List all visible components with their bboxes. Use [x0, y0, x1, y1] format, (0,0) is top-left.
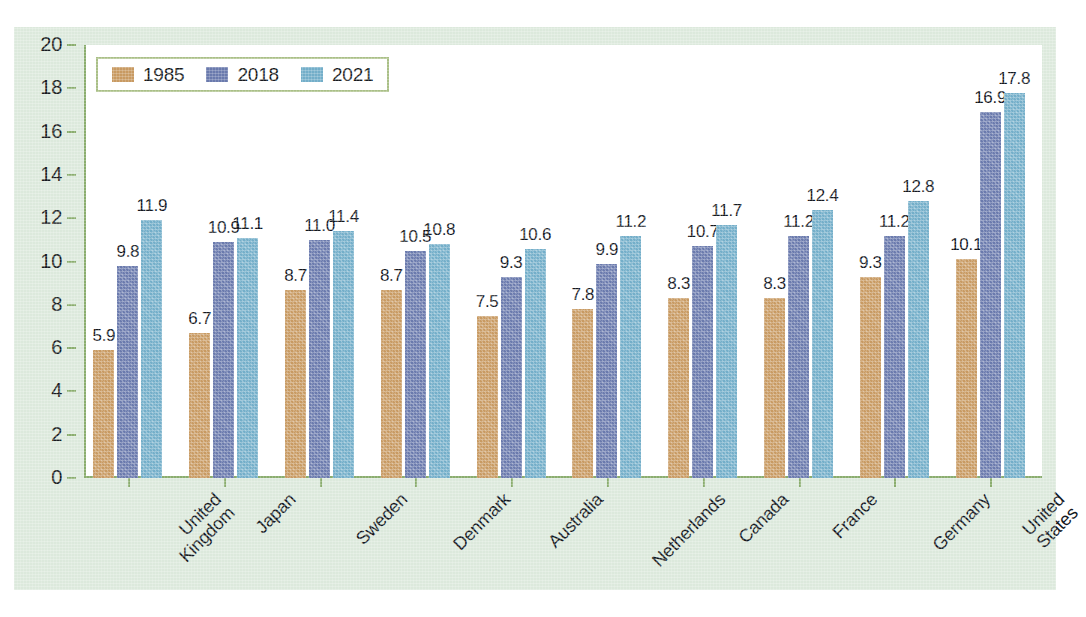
- x-axis-category-label: Germany: [930, 490, 995, 555]
- bar-value-label: 7.8: [572, 285, 595, 305]
- bar[interactable]: 6.7: [189, 333, 210, 478]
- bar-group: 7.89.911.2: [572, 45, 641, 478]
- y-axis-tick-label: 4: [51, 379, 62, 402]
- bar[interactable]: 10.5: [405, 251, 426, 478]
- bar[interactable]: 9.3: [501, 277, 522, 478]
- bar-value-label: 7.5: [476, 292, 499, 312]
- bar[interactable]: 11.9: [141, 220, 162, 478]
- y-axis-tick-mark: [67, 131, 76, 133]
- y-axis-tick-label: 12: [40, 206, 62, 229]
- bar[interactable]: 8.7: [285, 290, 306, 478]
- y-axis-tick-label: 14: [40, 163, 62, 186]
- y-axis-tick-mark: [67, 44, 76, 46]
- bar-value-label: 8.3: [763, 274, 786, 294]
- bar-value-label: 10.1: [950, 235, 982, 255]
- bar-value-label: 12.8: [902, 177, 934, 197]
- bar[interactable]: 7.8: [572, 309, 593, 478]
- legend-swatch-icon: [301, 67, 323, 82]
- x-axis-category-label: UnitedKingdom: [162, 490, 239, 567]
- bar[interactable]: 10.7: [692, 246, 713, 478]
- y-axis-tick-mark: [67, 434, 76, 436]
- bar[interactable]: 10.9: [213, 242, 234, 478]
- x-axis-category-line: Denmark: [450, 490, 514, 554]
- bar-value-label: 5.9: [93, 326, 116, 346]
- y-axis-tick-label: 10: [40, 250, 62, 273]
- y-axis: 02468101214161820: [14, 45, 76, 478]
- y-axis-tick-label: 6: [51, 336, 62, 359]
- bar-value-label: 9.3: [859, 253, 882, 273]
- bar[interactable]: 7.5: [477, 316, 498, 478]
- bar[interactable]: 10.6: [525, 249, 546, 478]
- bar[interactable]: 8.7: [381, 290, 402, 478]
- x-axis-category-label: UnitedStates: [1019, 490, 1082, 553]
- bar-group: 9.311.212.8: [860, 45, 929, 478]
- bar-value-label: 6.7: [188, 309, 211, 329]
- x-axis-category-line: Germany: [930, 490, 995, 555]
- bar-value-label: 11.2: [783, 212, 814, 232]
- y-axis-tick-mark: [67, 87, 76, 89]
- bar-group: 6.710.911.1: [189, 45, 258, 478]
- x-axis-category-label: Japan: [252, 490, 300, 538]
- bar-value-label: 11.4: [328, 207, 359, 227]
- legend-label: 1985: [143, 64, 184, 86]
- bar-group: 8.711.011.4: [285, 45, 354, 478]
- bar-value-label: 8.7: [380, 266, 403, 286]
- bar[interactable]: 11.1: [237, 238, 258, 478]
- bar[interactable]: 10.8: [429, 244, 450, 478]
- y-axis-tick-mark: [67, 261, 76, 263]
- bar[interactable]: 8.3: [668, 298, 689, 478]
- bar[interactable]: 12.4: [812, 210, 833, 478]
- bar-value-label: 8.3: [667, 274, 690, 294]
- bar[interactable]: 5.9: [93, 350, 114, 478]
- bar-value-label: 11.2: [616, 212, 647, 232]
- bar-value-label: 8.7: [284, 266, 307, 286]
- bar-value-label: 9.3: [500, 253, 523, 273]
- x-axis-category-label: Canada: [735, 490, 792, 547]
- x-axis-category-line: Canada: [735, 490, 792, 547]
- x-axis-category-label: France: [829, 490, 882, 543]
- y-axis-tick-mark: [67, 390, 76, 392]
- bar-group: 8.710.510.8: [381, 45, 450, 478]
- x-axis-category-line: Netherlands: [649, 490, 730, 571]
- bar[interactable]: 10.1: [956, 259, 977, 478]
- bar[interactable]: 9.8: [117, 266, 138, 478]
- legend-item-1985[interactable]: 1985: [112, 64, 184, 86]
- bar-value-label: 17.8: [998, 69, 1030, 89]
- bar[interactable]: 16.9: [980, 112, 1001, 478]
- y-axis-tick-label: 0: [51, 466, 62, 489]
- chart-figure-panel: 02468101214161820 5.99.811.96.710.911.18…: [14, 27, 1056, 590]
- bar-group: 8.311.212.4: [764, 45, 833, 478]
- bar-value-label: 11.9: [137, 196, 168, 216]
- bar-value-label: 10.8: [423, 220, 455, 240]
- x-axis-category-line: France: [829, 490, 882, 543]
- legend-item-2021[interactable]: 2021: [301, 64, 373, 86]
- bar-value-label: 11.2: [879, 212, 910, 232]
- y-axis-tick-label: 2: [51, 423, 62, 446]
- bar[interactable]: 12.8: [908, 201, 929, 478]
- legend-item-2018[interactable]: 2018: [206, 64, 278, 86]
- bar-value-label: 10.6: [519, 225, 551, 245]
- y-axis-tick-label: 20: [40, 33, 62, 56]
- bar[interactable]: 8.3: [764, 298, 785, 478]
- legend-swatch-icon: [206, 67, 228, 82]
- bar[interactable]: 11.2: [620, 236, 641, 478]
- y-axis-tick-mark: [67, 217, 76, 219]
- bar[interactable]: 11.4: [333, 231, 354, 478]
- bar[interactable]: 11.0: [309, 240, 330, 478]
- bar-value-label: 9.8: [117, 242, 140, 262]
- bar[interactable]: 17.8: [1004, 93, 1025, 478]
- bar[interactable]: 11.7: [716, 225, 737, 478]
- y-axis-tick-label: 8: [51, 293, 62, 316]
- bar[interactable]: 11.2: [788, 236, 809, 478]
- bar[interactable]: 9.3: [860, 277, 881, 478]
- legend-label: 2021: [332, 64, 373, 86]
- bar-value-label: 10.7: [687, 222, 719, 242]
- bar[interactable]: 9.9: [596, 264, 617, 478]
- bar[interactable]: 11.2: [884, 236, 905, 478]
- bar-value-label: 11.1: [232, 214, 263, 234]
- legend-label: 2018: [237, 64, 278, 86]
- x-axis-category-label: Denmark: [450, 490, 514, 554]
- bar-group: 7.59.310.6: [477, 45, 546, 478]
- bar-value-label: 16.9: [974, 88, 1006, 108]
- x-axis-category-line: Sweden: [352, 490, 411, 549]
